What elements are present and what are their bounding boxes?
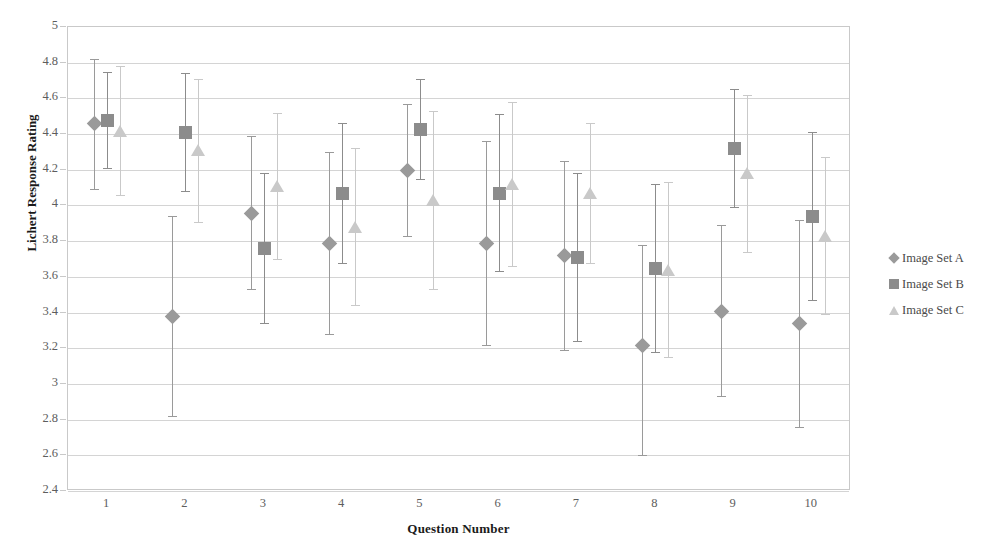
error-bar-cap (717, 396, 726, 397)
x-axis-tick-label: 6 (468, 496, 528, 511)
data-point-diamond[interactable] (243, 205, 259, 221)
data-point-diamond[interactable] (478, 236, 494, 252)
legend-item-2[interactable]: Image Set B (886, 271, 993, 297)
y-axis-tick-label: 2.6 (18, 446, 58, 461)
data-point-diamond[interactable] (713, 303, 729, 319)
error-bar-cap (103, 168, 112, 169)
data-point-square[interactable] (258, 242, 271, 255)
data-point-triangle[interactable] (661, 264, 675, 276)
square-icon (886, 279, 901, 289)
error-bar-cap (821, 157, 830, 158)
y-axis-tick-mark (60, 312, 66, 313)
y-axis-tick-label: 4 (18, 196, 58, 211)
error-bar-cap (560, 350, 569, 351)
error-bar-cap (808, 132, 817, 133)
error-bar-cap (429, 289, 438, 290)
data-point-triangle[interactable] (818, 230, 832, 242)
data-point-diamond[interactable] (635, 337, 651, 353)
error-bar-cap (416, 79, 425, 80)
y-axis-tick-mark (60, 26, 66, 27)
gridline (68, 455, 849, 456)
error-bar-cap (638, 245, 647, 246)
error-bar-cap (730, 89, 739, 90)
y-axis-tick-label: 3.6 (18, 268, 58, 283)
error-bar-cap (743, 95, 752, 96)
error-bar-cap (260, 173, 269, 174)
data-point-diamond[interactable] (400, 162, 416, 178)
error-bar-cap (495, 114, 504, 115)
gridline (68, 63, 849, 64)
y-axis-tick-mark (60, 347, 66, 348)
error-bar-cap (338, 123, 347, 124)
data-point-triangle[interactable] (270, 180, 284, 192)
data-point-triangle[interactable] (191, 144, 205, 156)
data-point-triangle[interactable] (505, 178, 519, 190)
error-bar-cap (795, 427, 804, 428)
gridline (68, 313, 849, 314)
error-bar-cap (181, 191, 190, 192)
gridline (68, 420, 849, 421)
error-bar-cap (260, 323, 269, 324)
error-bar-cap (573, 173, 582, 174)
data-point-triangle[interactable] (348, 221, 362, 233)
error-bar-cap (247, 136, 256, 137)
error-bar-cap (403, 104, 412, 105)
x-axis-tick-label: 7 (546, 496, 606, 511)
error-bar-cap (338, 263, 347, 264)
error-bar-cap (168, 416, 177, 417)
x-axis-tick-label: 8 (624, 496, 684, 511)
error-bar-cap (651, 184, 660, 185)
error-bar-cap (247, 289, 256, 290)
y-axis-tick-label: 5 (18, 18, 58, 33)
y-axis-tick-mark (60, 419, 66, 420)
error-bar-cap (194, 222, 203, 223)
x-axis-tick-label: 2 (154, 496, 214, 511)
data-point-triangle[interactable] (583, 187, 597, 199)
chart-container: Lichert Response Rating 54.84.64.44.243.… (0, 0, 993, 553)
error-bar-cap (586, 263, 595, 264)
y-axis-title: Lichert Response Rating (24, 73, 40, 293)
error-bar-cap (194, 79, 203, 80)
data-point-diamond[interactable] (792, 316, 808, 332)
y-axis-tick-label: 3.4 (18, 304, 58, 319)
y-axis-tick-label: 3 (18, 375, 58, 390)
error-bar-cap (168, 216, 177, 217)
error-bar-cap (730, 207, 739, 208)
x-axis-tick-label: 10 (781, 496, 841, 511)
error-bar-cap (103, 72, 112, 73)
error-bar-cap (743, 252, 752, 253)
legend-label: Image Set C (902, 303, 964, 318)
error-bar-cap (429, 111, 438, 112)
data-point-triangle[interactable] (426, 194, 440, 206)
error-bar-cap (482, 345, 491, 346)
gridline (68, 277, 849, 278)
y-axis-tick-mark (60, 454, 66, 455)
data-point-square[interactable] (728, 142, 741, 155)
error-bar-cap (508, 102, 517, 103)
data-point-triangle[interactable] (113, 125, 127, 137)
data-point-diamond[interactable] (322, 236, 338, 252)
legend-label: Image Set B (902, 277, 964, 292)
error-bar-cap (808, 300, 817, 301)
legend-item-1[interactable]: Image Set A (886, 245, 993, 271)
data-point-square[interactable] (336, 187, 349, 200)
x-axis-title: Question Number (0, 521, 917, 537)
data-point-square[interactable] (571, 251, 584, 264)
error-bar-cap (651, 352, 660, 353)
gridline (68, 491, 849, 492)
error-bar-cap (664, 357, 673, 358)
data-point-diamond[interactable] (87, 116, 103, 132)
data-point-diamond[interactable] (165, 309, 181, 325)
error-bar-cap (351, 148, 360, 149)
error-bar-cap (181, 73, 190, 74)
legend-item-3[interactable]: Image Set C (886, 297, 993, 323)
triangle-icon (886, 306, 901, 315)
data-point-square[interactable] (414, 123, 427, 136)
data-point-diamond[interactable] (557, 248, 573, 264)
data-point-triangle[interactable] (740, 167, 754, 179)
gridline (68, 384, 849, 385)
data-point-square[interactable] (806, 210, 819, 223)
data-point-square[interactable] (179, 126, 192, 139)
plot-area (67, 26, 850, 490)
error-bar-cap (403, 236, 412, 237)
